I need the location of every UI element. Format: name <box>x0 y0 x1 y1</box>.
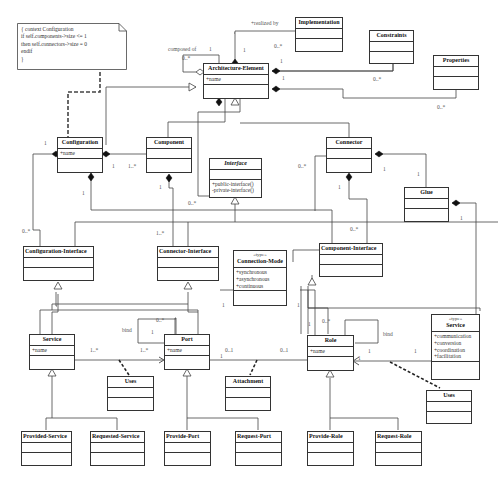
multiplicity: 1 <box>44 140 47 146</box>
attribute: +conversion <box>434 340 477 347</box>
class-name: «type» Service <box>432 315 479 332</box>
class-requested-service[interactable]: Requested-Service <box>90 431 145 466</box>
class-attributes <box>434 67 478 77</box>
class-name: Request-Port <box>236 432 281 443</box>
class-attributes <box>91 443 144 453</box>
role-label-bind-port: bind <box>122 327 132 333</box>
class-attachment[interactable]: Attachment <box>225 376 271 411</box>
note-line: { context Configuration <box>21 26 123 33</box>
class-request-role[interactable]: Request-Role <box>375 431 422 466</box>
multiplicity: 1 <box>220 353 223 359</box>
class-operations <box>405 209 448 218</box>
class-attributes <box>147 149 191 159</box>
class-operations <box>427 412 471 421</box>
class-attributes <box>24 258 93 268</box>
class-name: Provided-Service <box>22 432 71 443</box>
class-name: Uses <box>427 391 471 402</box>
class-properties[interactable]: Properties <box>433 55 479 90</box>
class-name: Request-Role <box>376 432 421 443</box>
ocl-constraint-note: { context Configuration if self.componen… <box>17 23 127 70</box>
class-attributes <box>370 42 413 52</box>
class-attributes <box>226 388 270 398</box>
class-attributes <box>236 443 281 453</box>
class-uses-right[interactable]: Uses <box>426 390 472 424</box>
class-glue[interactable]: Glue <box>404 187 449 222</box>
multiplicity: 1..* <box>128 163 136 169</box>
note-line: } <box>21 56 123 63</box>
class-operations <box>58 159 102 168</box>
class-name: Uses <box>108 377 153 388</box>
class-interface[interactable]: Interface +public-interface() -private-i… <box>209 158 262 198</box>
class-port[interactable]: Port +name <box>164 334 210 370</box>
multiplicity: 0..* <box>322 318 330 324</box>
multiplicity: 1 <box>280 58 283 64</box>
attribute: +communication <box>434 333 477 340</box>
class-operations <box>432 362 479 371</box>
role-label-composed-of: composed of <box>168 46 196 52</box>
class-attributes <box>376 443 421 453</box>
class-attributes: +name <box>308 347 353 357</box>
note-line: endif <box>21 48 123 55</box>
class-operations <box>376 453 421 462</box>
class-request-port[interactable]: Request-Port <box>235 431 282 466</box>
class-operations <box>22 453 71 462</box>
class-name: Configuration <box>58 138 102 149</box>
multiplicity: 1 <box>460 215 463 221</box>
class-name: Attachment <box>226 377 270 388</box>
note-line: then self.connectors->size = 0 <box>21 41 123 48</box>
class-operations <box>158 268 218 277</box>
multiplicity: 1 <box>417 171 420 177</box>
class-name: Connector <box>327 138 371 149</box>
class-constraints[interactable]: Constraints <box>369 30 414 64</box>
class-name: Properties <box>434 56 478 67</box>
class-attributes <box>210 170 261 180</box>
class-name: Provide-Port <box>165 432 210 443</box>
attribute: +facilitation <box>434 353 477 360</box>
class-connector[interactable]: Connector <box>326 137 372 173</box>
class-configuration-interface[interactable]: Configuration-Interface <box>23 246 94 281</box>
class-operations <box>165 453 210 462</box>
class-architecture-element[interactable]: Architecture-Element +name <box>203 63 269 99</box>
role-label-bind-role: bind <box>383 331 393 337</box>
multiplicity: 0..* <box>22 228 30 234</box>
multiplicity: 1 <box>282 75 285 81</box>
class-uses-left[interactable]: Uses <box>107 376 154 411</box>
multiplicity: 1 <box>368 348 371 354</box>
multiplicity: 1..* <box>90 347 98 353</box>
class-attributes <box>158 258 218 268</box>
multiplicity: 1 <box>82 190 85 196</box>
class-operations <box>327 159 371 168</box>
class-role[interactable]: Role +name <box>307 335 354 371</box>
class-operations <box>308 357 353 366</box>
class-attributes <box>108 388 153 398</box>
class-name: Connector-Interface <box>158 247 218 258</box>
class-provide-role[interactable]: Provide-Role <box>307 431 354 466</box>
class-component[interactable]: Component <box>146 137 192 173</box>
class-name-text: Connection-Mode <box>237 258 283 264</box>
multiplicity: 1 <box>112 163 115 169</box>
class-attributes: +communication +conversion +coordination… <box>432 332 479 363</box>
multiplicity: 0..* <box>373 76 381 82</box>
class-name: Implementation <box>296 18 342 29</box>
class-provide-port[interactable]: Provide-Port <box>164 431 211 466</box>
class-implementation[interactable]: Implementation <box>295 17 343 52</box>
class-name: Role <box>308 336 353 347</box>
class-connection-mode-type[interactable]: «type» Connection-Mode +synchronous +asy… <box>233 250 287 306</box>
class-connector-interface[interactable]: Connector-Interface <box>157 246 219 281</box>
class-operations <box>165 356 209 365</box>
class-component-interface[interactable]: Component-Interface <box>319 243 383 277</box>
class-configuration[interactable]: Configuration +name <box>57 137 103 173</box>
class-service-type[interactable]: «type» Service +communication +conversio… <box>431 314 480 380</box>
class-operations <box>108 398 153 407</box>
class-operations <box>296 39 342 48</box>
class-provided-service[interactable]: Provided-Service <box>21 431 72 466</box>
attribute: +continuous <box>236 283 284 290</box>
attribute: +synchronous <box>236 269 284 276</box>
class-name: «type» Connection-Mode <box>234 251 286 268</box>
multiplicity: 1 <box>383 166 386 172</box>
class-attributes <box>296 29 342 39</box>
multiplicity: 1 <box>358 355 361 361</box>
class-name: Interface <box>210 159 261 170</box>
class-operations <box>320 265 382 274</box>
class-service[interactable]: Service +name <box>29 334 75 370</box>
